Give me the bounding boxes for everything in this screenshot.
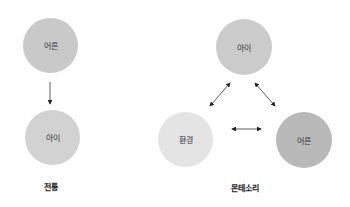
arrow-child-environment [210, 83, 230, 106]
node-montessori-child: 아이 [216, 19, 272, 75]
node-montessori-environment: 환경 [158, 112, 213, 167]
node-traditional-adult: 어른 [23, 18, 78, 73]
node-label: 어른 [297, 135, 311, 146]
arrow-child-adult [255, 83, 275, 106]
node-label: 어른 [44, 40, 58, 51]
node-label: 아이 [46, 132, 60, 143]
node-label: 아이 [237, 42, 251, 53]
caption-montessori: 몬테소리 [231, 182, 259, 193]
node-traditional-child: 아이 [25, 110, 80, 165]
node-montessori-adult: 어른 [276, 112, 332, 168]
node-label: 환경 [179, 134, 193, 145]
caption-traditional: 전통 [44, 181, 58, 192]
